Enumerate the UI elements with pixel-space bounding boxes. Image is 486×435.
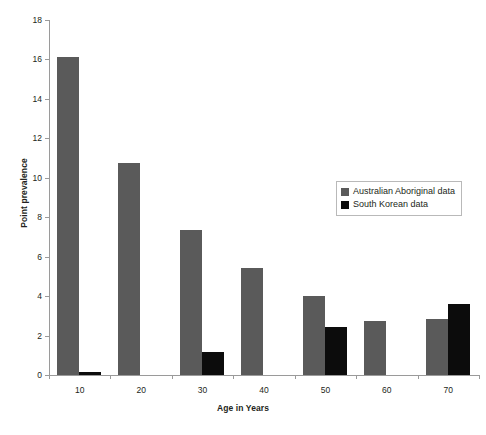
bar (118, 163, 140, 375)
bar-chart: Point prevalence 024681012141618 1020304… (0, 0, 486, 435)
y-tick-label: 16 (33, 55, 42, 63)
x-tick-label: 40 (259, 386, 268, 395)
bar (79, 372, 101, 375)
bar (325, 327, 347, 375)
x-tick-label: 60 (382, 386, 391, 395)
legend-item: Australian Aboriginal data (341, 185, 455, 198)
y-axis-label: Point prevalence (19, 123, 29, 263)
legend-swatch-gray (341, 188, 349, 196)
x-axis-line (49, 375, 479, 376)
y-tick (45, 336, 49, 337)
legend: Australian Aboriginal dataSouth Korean d… (336, 181, 462, 216)
legend-item: South Korean data (341, 198, 455, 211)
x-tick (356, 375, 357, 379)
bar (448, 304, 470, 375)
x-tick-label: 50 (321, 386, 330, 395)
x-tick-label: 70 (444, 386, 453, 395)
bar (202, 352, 224, 375)
y-tick (45, 99, 49, 100)
x-tick (172, 375, 173, 379)
y-tick-label: 18 (33, 16, 42, 24)
y-tick-label: 12 (33, 134, 42, 142)
x-tick (110, 375, 111, 379)
bar (241, 268, 263, 375)
y-tick-label: 8 (37, 213, 42, 221)
x-tick-label: 10 (75, 386, 84, 395)
x-tick (49, 375, 50, 379)
bar (57, 57, 79, 375)
bar (303, 296, 325, 375)
y-tick-label: 14 (33, 95, 42, 103)
y-tick (45, 257, 49, 258)
x-tick (418, 375, 419, 379)
x-axis-label: Age in Years (0, 403, 486, 413)
y-axis-line (49, 20, 50, 375)
y-tick-label: 2 (37, 332, 42, 340)
y-tick (45, 296, 49, 297)
y-tick-label: 4 (37, 292, 42, 300)
bar (180, 230, 202, 375)
bar (426, 319, 448, 375)
x-tick (233, 375, 234, 379)
y-tick (45, 217, 49, 218)
legend-swatch-black (341, 201, 349, 209)
y-tick (45, 20, 49, 21)
x-tick (479, 375, 480, 379)
bar (364, 321, 386, 375)
x-tick-label: 30 (198, 386, 207, 395)
x-tick-label: 20 (136, 386, 145, 395)
y-tick (45, 178, 49, 179)
x-tick (295, 375, 296, 379)
y-tick (45, 59, 49, 60)
legend-label: South Korean data (353, 199, 428, 210)
y-tick-label: 6 (37, 253, 42, 261)
y-tick-label: 10 (33, 174, 42, 182)
legend-label: Australian Aboriginal data (353, 186, 455, 197)
y-tick (45, 138, 49, 139)
y-tick-label: 0 (37, 371, 42, 379)
